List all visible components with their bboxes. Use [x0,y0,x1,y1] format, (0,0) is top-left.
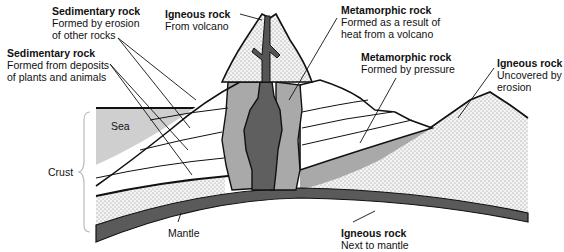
label-sedimentary-erosion: Sedimentary rock Formed by erosion of ot… [52,5,140,41]
label-igneous-uncovered: Igneous rock Uncovered by erosion [497,57,562,93]
label-metamorphic-pressure: Metamorphic rock Formed by pressure [361,51,455,75]
label-desc: Formed as a result of [341,16,440,28]
label-title: Igneous rock [341,227,409,239]
label-desc: Formed by erosion [52,17,140,29]
label-title: Metamorphic rock [361,51,455,63]
sea-label: Sea [111,120,130,132]
label-title: Igneous rock [165,8,230,20]
label-igneous-mantle: Igneous rock Next to mantle [341,227,409,251]
label-igneous-volcano: Igneous rock From volcano [165,8,230,32]
label-title: Sedimentary rock [52,5,140,17]
label-desc: Formed from deposits [7,59,109,71]
label-title: Sedimentary rock [7,47,109,59]
label-metamorphic-heat: Metamorphic rock Formed as a result of h… [341,4,440,40]
label-sedimentary-deposits: Sedimentary rock Formed from deposits of… [7,47,109,83]
crust-brace [78,112,90,232]
label-desc: Formed by pressure [361,63,455,75]
mantle-label: Mantle [168,227,200,239]
label-desc: Uncovered by [497,69,562,81]
label-desc: of plants and animals [7,71,109,83]
label-title: Metamorphic rock [341,4,440,16]
crust-label: Crust [48,166,73,178]
label-desc: of other rocks [52,29,140,41]
label-desc: Next to mantle [341,239,409,251]
label-desc: heat from a volcano [341,28,440,40]
label-title: Igneous rock [497,57,562,69]
label-desc: From volcano [165,20,230,32]
label-desc: erosion [497,81,562,93]
